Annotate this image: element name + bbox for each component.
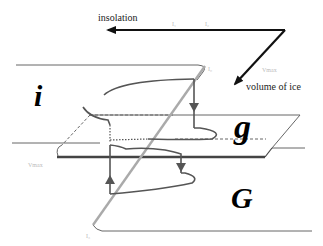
arrow-down-lower: [176, 163, 186, 172]
vmax-left-label: Vmax: [28, 162, 43, 168]
ice-volume-bifurcation-diagram: insolation volume of ice I₁ I₂ Vmax I₀ V…: [0, 0, 323, 246]
volume-axis: [235, 30, 285, 84]
arrow-up-lower: [105, 175, 115, 184]
plane-full-glacial: [93, 225, 312, 231]
state-label-i: i: [34, 79, 43, 112]
insolation-tick-i1: I₁: [172, 21, 176, 27]
state-label-g: g: [233, 108, 251, 145]
dotted-connectors: [110, 125, 148, 143]
vmax-axis-label: Vmax: [262, 67, 277, 73]
insolation-label: insolation: [98, 12, 137, 23]
threshold-i0-label: I₀: [208, 66, 212, 72]
plane-g-right-edge: [265, 148, 272, 157]
volume-of-ice-label: volume of ice: [246, 81, 302, 92]
plane-interglacial: [16, 65, 205, 80]
insolation-tick-i2: I₂: [205, 21, 209, 27]
state-label-G: G: [231, 181, 253, 214]
threshold-i3-label: I₃: [86, 233, 90, 239]
hysteresis-curve-upper: [83, 79, 216, 140]
arrow-down-upper: [189, 103, 199, 112]
